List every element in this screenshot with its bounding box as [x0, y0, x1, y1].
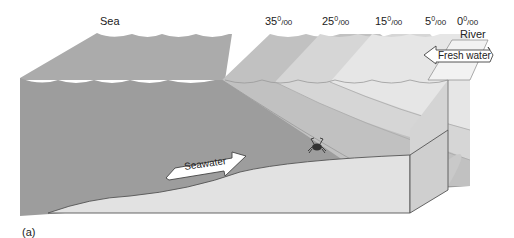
sea-top-surface — [20, 33, 232, 80]
salinity-label-0: 00/00 — [457, 15, 478, 27]
sea-label: Sea — [100, 15, 120, 27]
salinity-label-25: 250/00 — [322, 15, 349, 27]
fresh-water-label: Fresh water — [438, 50, 491, 61]
salinity-label-5: 50/00 — [425, 15, 446, 27]
salinity-label-35: 350/00 — [265, 15, 292, 27]
salinity-label-15: 150/00 — [375, 15, 402, 27]
river-label: River — [460, 28, 486, 40]
panel-label: (a) — [22, 226, 35, 238]
estuary-block-diagram — [0, 0, 514, 238]
